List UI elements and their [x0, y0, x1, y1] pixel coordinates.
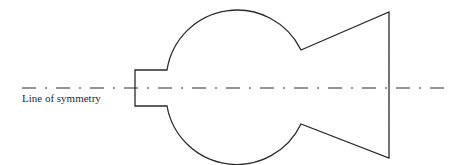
diagram-svg: [0, 0, 456, 165]
line-of-symmetry-label: Line of symmetry: [22, 92, 101, 104]
symmetric-shape-outline: [135, 10, 389, 164]
diagram-canvas: Line of symmetry: [0, 0, 456, 165]
